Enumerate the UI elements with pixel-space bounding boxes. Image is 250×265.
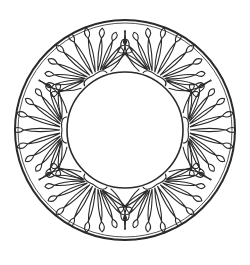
outer-petal-icon (208, 164, 214, 171)
outer-petal-icon (35, 164, 41, 171)
outer-petal-icon (196, 184, 205, 189)
outer-petal-icon (99, 28, 104, 38)
outer-petal-icon (48, 59, 57, 65)
petal-icon (24, 128, 60, 131)
outer-petal-icon (146, 28, 151, 38)
outer-petal-icon (133, 219, 138, 228)
outer-petal-icon (45, 71, 54, 76)
outer-petal-icon (56, 207, 64, 215)
outer-petal-icon (216, 98, 224, 104)
outer-petal-icon (186, 207, 194, 215)
outer-petal-icon (25, 155, 33, 161)
fan-base-cap-icon (183, 117, 188, 143)
outer-petal-icon (216, 155, 224, 161)
outer-petal-icon (193, 59, 202, 65)
outer-petal-icon (25, 98, 33, 104)
outer-petal-icon (186, 45, 194, 53)
outer-petal-icon (193, 196, 202, 202)
petal-icon (190, 128, 226, 131)
floral-ring-mandala (0, 0, 250, 265)
outer-petal-icon (133, 32, 138, 41)
outer-petal-icon (35, 89, 41, 96)
inner-circle (67, 72, 183, 188)
outer-petal-icon (112, 32, 117, 41)
outer-petal-icon (112, 219, 117, 228)
outer-petal-icon (208, 89, 214, 96)
outer-petal-icon (45, 184, 54, 189)
outer-petal-icon (48, 196, 57, 202)
outer-petal-icon (56, 45, 64, 53)
outer-petal-icon (99, 222, 104, 232)
outer-petal-icon (146, 222, 151, 232)
fan-base-cap-icon (62, 117, 67, 143)
outer-petal-icon (196, 71, 205, 76)
